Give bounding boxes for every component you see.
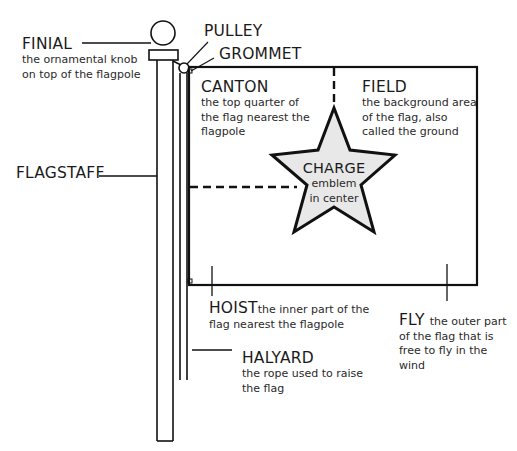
halyard-title: HALYARD	[242, 349, 363, 367]
field-title: FIELD	[362, 78, 477, 96]
fly-desc-3: wind	[399, 359, 507, 374]
label-charge: CHARGE emblem in center	[294, 159, 374, 206]
finial-desc-1: the ornamental knob	[22, 53, 141, 68]
canton-desc-1: the top quarter of	[201, 96, 310, 111]
finial-title: FINIAL	[22, 35, 141, 53]
halyard-desc-2: the flag	[242, 382, 363, 397]
hoist-desc-1: flag nearest the flagpole	[209, 318, 369, 333]
fly-desc-2: free to fly in the	[399, 344, 507, 359]
finial-desc-2: on top of the flagpole	[22, 68, 141, 83]
field-desc-3: called the ground	[362, 125, 477, 140]
canton-desc-3: flagpole	[201, 125, 310, 140]
label-hoist: HOISTthe inner part of the flag nearest …	[209, 298, 369, 332]
canton-desc-2: the flag nearest the	[201, 111, 310, 126]
canton-title: CANTON	[201, 78, 310, 96]
label-fly: FLY the outer part of the flag that is f…	[399, 310, 507, 373]
charge-desc-1: emblem	[294, 177, 374, 192]
label-pulley: PULLEY	[204, 22, 262, 40]
fly-desc-1: of the flag that is	[399, 330, 507, 345]
label-finial: FINIAL the ornamental knob on top of the…	[22, 35, 141, 82]
fly-desc-inline: the outer part	[430, 315, 507, 328]
finial-knob	[151, 21, 175, 45]
charge-desc-2: in center	[294, 192, 374, 207]
halyard-desc-1: the rope used to raise	[242, 367, 363, 382]
charge-title: CHARGE	[294, 159, 374, 177]
label-grommet: GROMMET	[219, 45, 301, 63]
label-halyard: HALYARD the rope used to raise the flag	[242, 349, 363, 396]
hoist-desc-inline: the inner part of the	[258, 303, 370, 316]
label-field: FIELD the background area of the flag, a…	[362, 78, 477, 140]
finial-cap	[149, 50, 178, 60]
fly-title: FLY	[399, 311, 425, 329]
label-flagstaff: FLAGSTAFF	[16, 164, 105, 182]
field-desc-1: the background area	[362, 96, 477, 111]
field-desc-2: of the flag, also	[362, 111, 477, 126]
hoist-title: HOIST	[209, 299, 258, 317]
label-canton: CANTON the top quarter of the flag neare…	[201, 78, 310, 140]
